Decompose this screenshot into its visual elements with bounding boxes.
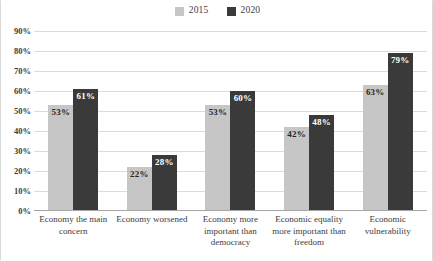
bar-2020[interactable]: 28% [152, 155, 177, 211]
legend-label-2020: 2020 [241, 6, 261, 16]
y-axis-tick-label: 70% [14, 67, 31, 76]
y-axis-tick-label: 50% [14, 107, 31, 116]
x-axis-category-labels: Economy the main concernEconomy worsened… [34, 214, 427, 261]
y-axis-tick-label: 90% [14, 27, 31, 36]
x-axis-label: Economy the main concern [34, 214, 113, 237]
bar-2015[interactable]: 53% [48, 105, 73, 211]
y-axis-tick-label: 0% [18, 207, 31, 216]
y-axis-tick-label: 40% [14, 127, 31, 136]
x-axis-label: Economic equality more important than fr… [270, 214, 349, 249]
y-axis-tick-label: 10% [14, 187, 31, 196]
x-axis-label: Economy worsened [113, 214, 192, 226]
legend-label-2015: 2015 [189, 6, 209, 16]
bar-group: 22%28% [113, 31, 192, 211]
bar-value-label: 22% [130, 170, 149, 179]
legend-item-2020[interactable]: 2020 [227, 6, 261, 16]
bar-chart: 2015 2020 90%80%70%60%50%40%30%20%10%0% … [0, 0, 433, 261]
bar-value-label: 53% [209, 108, 228, 117]
bar-2020[interactable]: 61% [73, 89, 98, 211]
bar-2015[interactable]: 53% [205, 105, 230, 211]
x-axis-line [34, 210, 427, 211]
legend-item-2015[interactable]: 2015 [175, 6, 209, 16]
bar-value-label: 48% [312, 118, 331, 127]
bar-value-label: 42% [287, 130, 306, 139]
y-axis-tick-label: 20% [14, 167, 31, 176]
x-axis-label: Economy more important than democracy [191, 214, 270, 249]
y-axis-tick-label: 60% [14, 87, 31, 96]
bar-2020[interactable]: 60% [230, 91, 255, 211]
y-axis-tick-label: 80% [14, 47, 31, 56]
legend-swatch-2020 [227, 7, 236, 16]
bar-value-label: 53% [51, 108, 70, 117]
bar-value-label: 79% [391, 56, 410, 65]
bars-layer: 53%61%22%28%53%60%42%48%63%79% [34, 31, 427, 211]
chart-legend: 2015 2020 [1, 3, 433, 19]
y-axis-tick-label: 30% [14, 147, 31, 156]
bar-2015[interactable]: 22% [127, 167, 152, 211]
bar-2020[interactable]: 48% [309, 115, 334, 211]
bar-group: 63%79% [348, 31, 427, 211]
bar-value-label: 60% [234, 94, 253, 103]
bar-2015[interactable]: 63% [363, 85, 388, 211]
plot-area: 53%61%22%28%53%60%42%48%63%79% [34, 31, 427, 211]
bar-2015[interactable]: 42% [284, 127, 309, 211]
legend-swatch-2015 [175, 7, 184, 16]
bar-value-label: 28% [155, 158, 174, 167]
bar-value-label: 61% [76, 92, 95, 101]
bar-group: 53%60% [191, 31, 270, 211]
bar-value-label: 63% [366, 88, 385, 97]
bar-group: 42%48% [270, 31, 349, 211]
y-axis: 90%80%70%60%50%40%30%20%10%0% [1, 31, 31, 211]
bar-group: 53%61% [34, 31, 113, 211]
bar-2020[interactable]: 79% [388, 53, 413, 211]
x-axis-label: Economic vulnerability [348, 214, 427, 237]
